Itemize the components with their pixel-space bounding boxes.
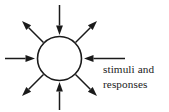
arrow-bottom-inward	[56, 82, 63, 110]
arrow-bottom-inward-head	[56, 82, 63, 92]
stimuli-response-diagram: stimuli and responses	[0, 0, 169, 112]
caption-line-stimuli: stimuli and	[103, 63, 154, 75]
arrow-bottom-right-outward-shaft	[76, 75, 91, 90]
arrow-top-left-outward-shaft	[29, 28, 44, 43]
arrow-top-left-outward	[22, 21, 44, 43]
arrow-left-inward-head	[26, 55, 36, 62]
arrow-bottom-left-outward-shaft	[29, 75, 44, 90]
arrow-right-inward-head	[84, 55, 94, 62]
arrow-right-inward	[84, 55, 125, 62]
arrow-top-inward	[56, 5, 63, 35]
arrow-top-right-outward	[76, 21, 98, 43]
figure-root: stimuli and responses	[0, 0, 169, 112]
arrow-bottom-left-outward	[22, 75, 44, 97]
arrow-top-inward-head	[56, 26, 63, 36]
arrow-bottom-right-outward	[76, 75, 98, 97]
caption-line-responses: responses	[103, 78, 147, 90]
arrow-top-right-outward-shaft	[76, 28, 91, 43]
arrow-left-inward	[5, 55, 35, 62]
central-node-circle	[38, 37, 82, 81]
